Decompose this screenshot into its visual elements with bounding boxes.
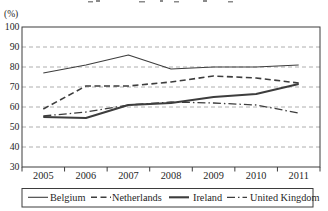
legend-label-belgium: Belgium [50, 192, 85, 203]
title-fragment-mark [228, 1, 233, 3]
cropped-title-fragment [88, 0, 233, 3]
legend-label-netherlands: Netherlands [112, 192, 162, 203]
series-line-united-kingdom [43, 102, 298, 116]
title-fragment-mark [96, 0, 100, 2]
y-tick-label-60: 60 [10, 101, 20, 112]
y-tick-label-100: 100 [5, 21, 20, 32]
y-tick-label-30: 30 [10, 161, 20, 172]
x-tick-label-2009: 2009 [203, 170, 224, 181]
title-fragment-mark [88, 1, 93, 3]
y-tick-label-90: 90 [10, 41, 20, 52]
title-fragment-mark [174, 1, 179, 3]
title-fragment-mark [203, 0, 207, 2]
x-tick-label-2005: 2005 [33, 170, 54, 181]
legend-label-ireland: Ireland [193, 192, 223, 203]
y-tick-label-40: 40 [10, 141, 20, 152]
gridlines [22, 47, 320, 147]
series-line-belgium [43, 55, 298, 73]
plot-border [22, 27, 320, 167]
x-tick-label-2007: 2007 [118, 170, 139, 181]
x-axis-tick-labels: 2005200620072008200920102011 [33, 170, 309, 181]
x-tick-label-2011: 2011 [289, 170, 309, 181]
y-axis-tick-labels: 10090807060504030 [5, 21, 20, 172]
y-axis-unit-label: (%) [4, 9, 18, 20]
y-tick-label-50: 50 [10, 121, 20, 132]
x-tick-label-2006: 2006 [76, 170, 97, 181]
y-tick-label-70: 70 [10, 81, 20, 92]
x-tick-label-2010: 2010 [246, 170, 267, 181]
x-tick-label-2008: 2008 [161, 170, 182, 181]
legend: BelgiumNetherlandsIrelandUnited Kingdom [22, 189, 320, 208]
chart-figure: (%) 10090807060504030 200520062007200820… [0, 0, 328, 211]
title-fragment-mark [139, 1, 145, 3]
legend-label-united-kingdom: United Kingdom [250, 192, 320, 203]
y-tick-label-80: 80 [10, 61, 20, 72]
title-fragment-mark [160, 0, 163, 2]
series-lines [43, 55, 298, 118]
line-chart: (%) 10090807060504030 200520062007200820… [0, 0, 328, 211]
